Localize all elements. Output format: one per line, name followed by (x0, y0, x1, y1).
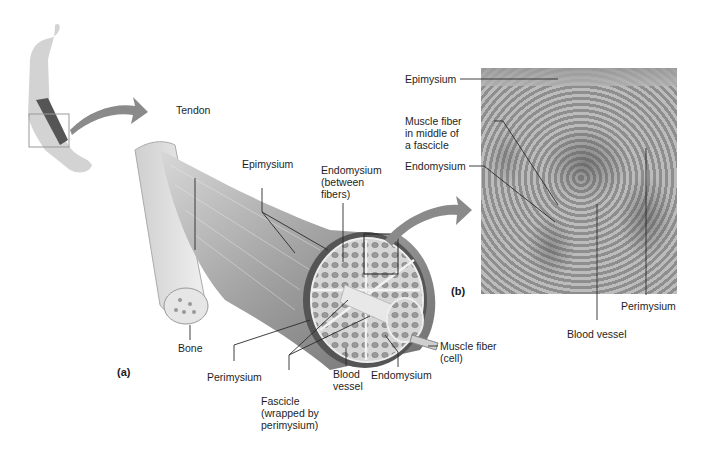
label-muscle-fiber-cell: Muscle fiber (cell) (440, 340, 497, 364)
label-fascicle: Fascicle (wrapped by perimysium) (261, 395, 319, 431)
panel-a-label: (a) (117, 366, 130, 378)
label-blood-vessel-b: Blood vessel (567, 328, 627, 340)
label-perimysium-b: Perimysium (621, 300, 676, 312)
label-tendon: Tendon (176, 104, 210, 116)
label-epimysium-a: Epimysium (242, 158, 293, 170)
label-perimysium-a: Perimysium (207, 371, 262, 383)
label-endomysium-b: Endomysium (405, 160, 466, 172)
panel-b-label: (b) (451, 285, 465, 297)
label-endomysium-a: Endomysium (371, 369, 432, 381)
label-muscle-fiber-middle: Muscle fiber in middle of a fascicle (405, 115, 462, 151)
label-epimysium-b: Epimysium (405, 73, 456, 85)
label-endomysium-between: Endomysium (between fibers) (321, 164, 382, 200)
label-blood-vessel-a: Blood vessel (333, 368, 363, 392)
label-bone: Bone (178, 342, 203, 354)
